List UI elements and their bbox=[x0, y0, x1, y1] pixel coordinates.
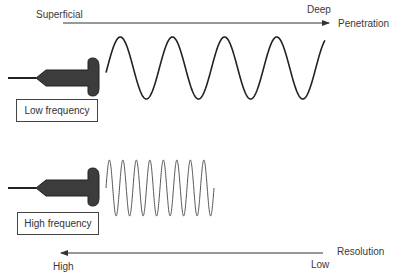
high-frequency-probe bbox=[8, 168, 99, 206]
low-frequency-probe bbox=[8, 58, 99, 96]
deep-label: Deep bbox=[307, 4, 331, 15]
resolution-label: Resolution bbox=[337, 246, 384, 257]
high-frequency-label: High frequency bbox=[24, 218, 91, 229]
low-frequency-label-box: Low frequency bbox=[16, 99, 98, 122]
high-frequency-label-box: High frequency bbox=[17, 212, 99, 235]
high-frequency-wave bbox=[106, 160, 214, 216]
low-frequency-label: Low frequency bbox=[24, 105, 89, 116]
low-resolution-label: Low bbox=[311, 259, 329, 270]
probe-body bbox=[36, 58, 99, 96]
probe-body bbox=[36, 168, 99, 206]
penetration-label: Penetration bbox=[338, 18, 389, 29]
diagram-canvas bbox=[0, 0, 401, 278]
superficial-label: Superficial bbox=[36, 9, 83, 20]
low-frequency-wave bbox=[106, 37, 325, 99]
high-resolution-label: High bbox=[53, 261, 74, 272]
